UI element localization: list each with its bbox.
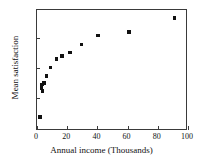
y-axis-tick <box>36 38 40 39</box>
x-axis-tick-label: 0 <box>24 132 48 141</box>
data-point <box>96 34 100 38</box>
y-axis-tick <box>36 68 40 69</box>
data-point <box>42 81 46 85</box>
x-axis-tick-label: 100 <box>175 132 199 141</box>
y-axis-tick <box>36 98 40 99</box>
data-point <box>127 30 131 34</box>
data-point <box>38 115 42 119</box>
data-point <box>45 74 49 78</box>
x-axis-tick-label: 40 <box>84 132 108 141</box>
y-axis-title: Mean satisfaction <box>10 18 21 118</box>
data-point <box>173 16 177 20</box>
x-axis-tick-label: 20 <box>54 132 78 141</box>
data-point <box>55 57 59 61</box>
plot-area <box>36 9 187 130</box>
x-axis-tick <box>97 126 98 130</box>
x-axis-tick <box>67 126 68 130</box>
scatter-chart-figure: 020406080100 Annual income (Thousands) M… <box>0 0 203 165</box>
x-axis-tick <box>37 126 38 130</box>
data-point <box>41 89 45 93</box>
data-point <box>49 66 53 70</box>
data-point <box>80 43 84 47</box>
data-point <box>68 51 72 55</box>
x-axis-tick <box>158 126 159 130</box>
x-axis-tick <box>128 126 129 130</box>
data-point <box>60 54 64 58</box>
x-axis-title: Annual income (Thousands) <box>0 145 203 156</box>
x-axis-tick <box>188 126 189 130</box>
x-axis-tick-label: 60 <box>115 132 139 141</box>
x-axis-tick-label: 80 <box>145 132 169 141</box>
